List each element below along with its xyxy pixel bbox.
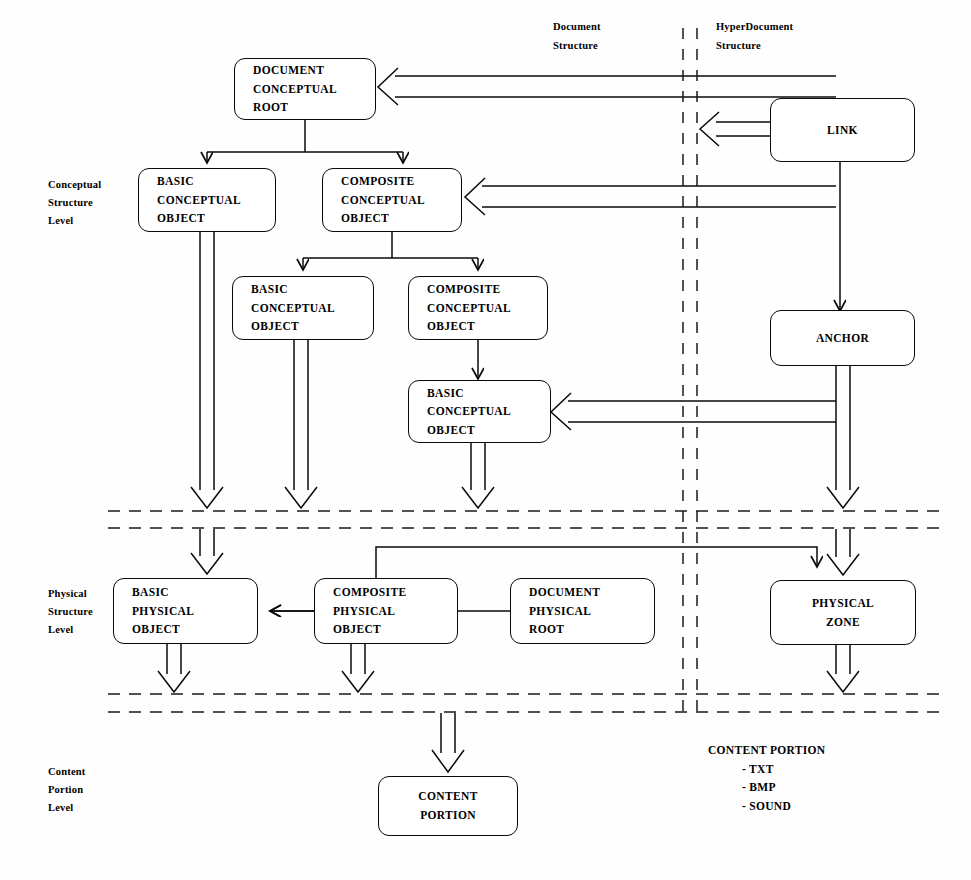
node-physical-zone[interactable]: PHYSICAL ZONE [770, 580, 916, 645]
column-header-line: Document [553, 18, 601, 37]
node-anchor[interactable]: ANCHOR [770, 310, 915, 366]
node-basic-conceptual-object-3[interactable]: BASIC CONCEPTUAL OBJECT [408, 380, 551, 443]
column-header-document-structure: Document Structure [553, 18, 601, 55]
node-basic-conceptual-object-1[interactable]: BASIC CONCEPTUAL OBJECT [138, 168, 276, 232]
node-label-line: PHYSICAL [812, 594, 874, 613]
node-label-line: OBJECT [132, 620, 180, 639]
node-label-line: OBJECT [427, 317, 475, 336]
node-label-line: COMPOSITE [427, 280, 500, 299]
legend-item-sound: - SOUND [708, 797, 825, 816]
node-label-line: CONCEPTUAL [341, 191, 425, 210]
level-label-line: Level [48, 212, 101, 230]
node-label-line: LINK [827, 121, 858, 140]
hollow-physzone-head [827, 671, 859, 692]
node-label-line: OBJECT [427, 421, 475, 440]
node-content-portion[interactable]: CONTENT PORTION [378, 776, 518, 836]
level-label-line: Physical [48, 585, 93, 603]
level-label-line: Portion [48, 781, 86, 799]
hollow-anchor-basic3-head [551, 393, 571, 430]
hollow-anchor-head [827, 487, 859, 508]
node-label-line: COMPOSITE [341, 172, 414, 191]
hollow-basic1-head [191, 487, 223, 508]
node-basic-physical-object[interactable]: BASIC PHYSICAL OBJECT [113, 578, 258, 644]
edge-composite-physical-to-physical-zone [376, 547, 817, 578]
legend-content-portion: CONTENT PORTION - TXT - BMP - SOUND [708, 741, 825, 816]
node-document-conceptual-root[interactable]: DOCUMENT CONCEPTUAL ROOT [234, 58, 376, 120]
node-label-line: BASIC [427, 384, 464, 403]
column-header-line: Structure [553, 37, 601, 56]
level-label-content-portion-level: Content Portion Level [48, 763, 86, 817]
level-label-line: Structure [48, 194, 101, 212]
column-header-line: Structure [716, 37, 793, 56]
node-label-line: ANCHOR [816, 329, 869, 348]
node-label-line: PORTION [420, 806, 476, 825]
level-label-line: Level [48, 799, 86, 817]
node-label-line: COMPOSITE [333, 583, 406, 602]
node-composite-conceptual-object-1[interactable]: COMPOSITE CONCEPTUAL OBJECT [322, 168, 462, 232]
level-label-conceptual-structure-level: Conceptual Structure Level [48, 176, 101, 230]
node-label-line: BASIC [251, 280, 288, 299]
node-label-line: OBJECT [251, 317, 299, 336]
hollow-basicphys-head [158, 671, 190, 692]
node-label-line: PHYSICAL [529, 602, 591, 621]
hollow-anchor-head2 [827, 554, 859, 575]
node-label-line: CONCEPTUAL [427, 299, 511, 318]
legend-item-txt: - TXT [708, 760, 825, 779]
node-label-line: DOCUMENT [529, 583, 600, 602]
hollow-anchor-comp1-head [465, 178, 485, 215]
node-label-line: OBJECT [333, 620, 381, 639]
hollow-basic3-head [462, 487, 494, 508]
node-label-line: BASIC [157, 172, 194, 191]
node-basic-conceptual-object-2[interactable]: BASIC CONCEPTUAL OBJECT [232, 276, 374, 340]
column-header-hyperdocument-structure: HyperDocument Structure [716, 18, 793, 55]
hollow-basic1-head2 [191, 553, 223, 574]
column-header-line: HyperDocument [716, 18, 793, 37]
legend-item-bmp: - BMP [708, 778, 825, 797]
hollow-basic2-head [285, 487, 317, 508]
node-label-line: ROOT [253, 98, 288, 117]
level-label-line: Structure [48, 603, 93, 621]
hollow-compphys-head [342, 671, 374, 692]
node-label-line: CONCEPTUAL [157, 191, 241, 210]
level-label-physical-structure-level: Physical Structure Level [48, 585, 93, 639]
node-link[interactable]: LINK [770, 98, 915, 162]
hollow-anchor-root-head [378, 68, 398, 105]
level-label-line: Level [48, 621, 93, 639]
level-label-line: Conceptual [48, 176, 101, 194]
node-label-line: OBJECT [341, 209, 389, 228]
legend-title: CONTENT PORTION [708, 741, 825, 760]
node-label-line: CONCEPTUAL [251, 299, 335, 318]
node-document-physical-root[interactable]: DOCUMENT PHYSICAL ROOT [510, 578, 655, 644]
hollow-content-head [432, 750, 464, 772]
node-label-line: ROOT [529, 620, 564, 639]
level-label-line: Content [48, 763, 86, 781]
node-label-line: CONTENT [418, 787, 477, 806]
node-label-line: ZONE [826, 613, 860, 632]
node-label-line: BASIC [132, 583, 169, 602]
hollow-link-head [700, 112, 719, 146]
node-label-line: PHYSICAL [132, 602, 194, 621]
node-label-line: DOCUMENT [253, 61, 324, 80]
node-label-line: OBJECT [157, 209, 205, 228]
diagram-canvas: Document Structure HyperDocument Structu… [0, 0, 971, 880]
node-label-line: CONCEPTUAL [427, 402, 511, 421]
node-label-line: CONCEPTUAL [253, 80, 337, 99]
node-composite-conceptual-object-2[interactable]: COMPOSITE CONCEPTUAL OBJECT [408, 276, 548, 340]
node-composite-physical-object[interactable]: COMPOSITE PHYSICAL OBJECT [314, 578, 458, 644]
node-label-line: PHYSICAL [333, 602, 395, 621]
